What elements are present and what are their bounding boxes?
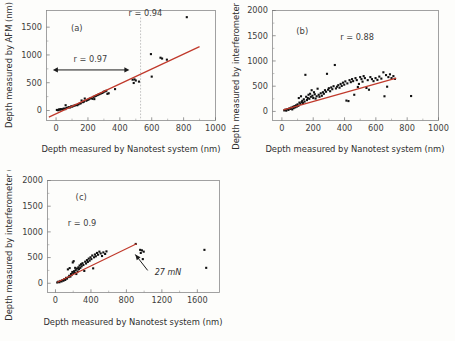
data-point	[392, 75, 394, 77]
x-tick-label: 600	[144, 123, 160, 133]
panel-a-ylabel: Depth measured by AFM (nm)	[4, 2, 14, 128]
panel-a: 02004006008001000050010001500 (a) r = 0.…	[0, 0, 232, 165]
data-point	[337, 84, 339, 86]
data-point	[316, 95, 318, 97]
y-tick-label: 1000	[21, 50, 42, 60]
panel-a-svg: 02004006008001000050010001500 (a) r = 0.…	[0, 0, 232, 165]
data-point	[338, 87, 340, 89]
x-tick-label: 400	[112, 123, 128, 133]
data-point	[352, 80, 354, 82]
panel-b-plot: 020040060080010000500100015002000 (b) r …	[231, 0, 449, 154]
data-point	[166, 59, 168, 61]
x-tick-label: 0	[279, 123, 284, 133]
data-point	[376, 79, 378, 81]
data-point	[94, 253, 96, 255]
data-point	[205, 267, 207, 269]
y-tick-label: 500	[26, 78, 42, 88]
data-point	[81, 262, 83, 264]
data-point	[340, 83, 342, 85]
x-tick-label: 0	[53, 123, 58, 133]
data-point	[101, 255, 103, 257]
figure-root: 02004006008001000050010001500 (a) r = 0.…	[0, 0, 455, 341]
panel-c-load-label: 27 mN	[155, 268, 182, 277]
x-tick-label: 1000	[205, 123, 226, 133]
data-point	[378, 76, 380, 78]
data-point	[104, 253, 106, 255]
x-tick-label: 600	[368, 123, 384, 133]
data-point	[143, 251, 145, 253]
x-tick-label: 800	[399, 123, 415, 133]
panel-a-fit-line	[49, 47, 200, 118]
x-tick-label: 800	[176, 123, 192, 133]
data-point	[89, 256, 91, 258]
data-point	[108, 92, 110, 94]
data-point	[372, 80, 374, 82]
data-point	[367, 79, 369, 81]
panel-b-label: (b)	[296, 26, 308, 36]
data-point	[350, 81, 352, 83]
x-tick-label: 800	[119, 295, 135, 305]
data-point	[315, 98, 317, 100]
x-tick-label: 1200	[151, 295, 172, 305]
range-arrow-head-right	[124, 67, 129, 72]
y-tick-label: 0	[263, 106, 268, 116]
data-point	[150, 53, 152, 55]
x-tick-label: 1000	[428, 123, 449, 133]
data-point	[96, 252, 98, 254]
data-point	[311, 95, 313, 97]
data-point	[354, 77, 356, 79]
data-point	[82, 264, 84, 266]
y-tick-label: 2000	[247, 5, 268, 15]
data-point	[92, 267, 94, 269]
panel-a-r-overall: r = 0.94	[129, 8, 163, 18]
panel-b-ylabel: Depth measured by interferometer (nm)	[231, 0, 241, 150]
panel-c-points	[56, 243, 207, 284]
data-point	[105, 250, 107, 252]
data-point	[186, 16, 188, 18]
x-tick-label: 200	[80, 123, 96, 133]
data-point	[318, 96, 320, 98]
data-point	[383, 95, 385, 97]
data-point	[308, 98, 310, 100]
data-point	[73, 260, 75, 262]
data-point	[65, 104, 67, 106]
panel-b-xlabel: Depth measured by Nanotest system (nm)	[265, 144, 444, 154]
y-tick-label: 1500	[21, 22, 42, 32]
data-point	[345, 100, 347, 102]
data-point	[313, 91, 315, 93]
panel-c-load-arrow	[135, 254, 147, 270]
data-point	[317, 88, 319, 90]
data-point	[321, 95, 323, 97]
data-point	[358, 83, 360, 85]
data-point	[348, 79, 350, 81]
data-point	[328, 87, 330, 89]
data-point	[303, 98, 305, 100]
data-point	[142, 258, 144, 260]
data-point	[91, 254, 93, 256]
data-point	[69, 267, 71, 269]
data-point	[77, 266, 79, 268]
data-point	[326, 73, 328, 75]
data-point	[386, 86, 388, 88]
y-tick-label: 2000	[22, 175, 43, 185]
data-point	[333, 85, 335, 87]
data-point	[133, 82, 135, 84]
panel-c-xlabel: Depth measured by Nanotest system (nm)	[43, 317, 222, 327]
y-tick-label: 1000	[247, 56, 268, 66]
data-point	[97, 254, 99, 256]
data-point	[304, 74, 306, 76]
x-tick-label: 400	[83, 295, 99, 305]
data-point	[357, 86, 359, 88]
y-tick-label: 1500	[247, 31, 268, 41]
data-point	[387, 76, 389, 78]
data-point	[135, 79, 137, 81]
panel-c-frame	[48, 181, 220, 293]
data-point	[329, 90, 331, 92]
y-tick-label: 1500	[22, 201, 43, 211]
data-point	[320, 92, 322, 94]
panel-a-plot: 02004006008001000050010001500 (a) r = 0.…	[4, 2, 226, 154]
panel-b-r-overall: r = 0.88	[340, 32, 374, 42]
data-point	[311, 89, 313, 91]
panel-c-label: (c)	[76, 192, 87, 202]
data-point	[334, 64, 336, 66]
